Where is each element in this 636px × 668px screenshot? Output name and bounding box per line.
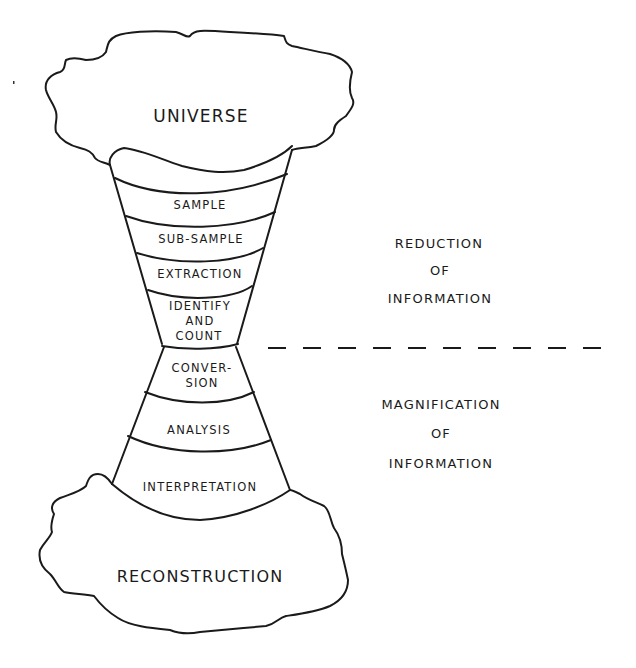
reconstruction-cloud: RECONSTRUCTION: [39, 474, 348, 633]
hourglass-diagram: UNIVERSE SAMPLE SUB-SAMPLE EXTRACTION ID…: [0, 0, 636, 668]
reconstruction-label: RECONSTRUCTION: [117, 567, 284, 586]
stage-identify-label: IDENTIFY: [169, 299, 231, 313]
reduction-label-line-2: OF: [430, 263, 450, 278]
magnification-label-line-1: MAGNIFICATION: [381, 397, 500, 412]
reduction-of-information-label: REDUCTION OF INFORMATION: [388, 236, 492, 306]
band-divider: [148, 286, 252, 298]
universe-label: UNIVERSE: [153, 106, 249, 126]
neck-divider: [162, 344, 238, 349]
band-divider: [145, 392, 254, 403]
band-divider: [115, 174, 287, 193]
stage-conversion-label-1: CONVER-: [172, 361, 233, 375]
stage-sub-sample-label: SUB-SAMPLE: [158, 232, 244, 246]
stage-interpretation-label: INTERPRETATION: [143, 480, 257, 494]
funnel: SAMPLE SUB-SAMPLE EXTRACTION IDENTIFY AN…: [110, 150, 292, 494]
reduction-label-line-3: INFORMATION: [388, 291, 492, 306]
stage-sample-label: SAMPLE: [173, 198, 226, 212]
stage-conversion-label-2: SION: [185, 376, 218, 390]
universe-cloud: UNIVERSE: [46, 31, 354, 172]
stray-mark: [13, 81, 15, 84]
reduction-label-line-1: REDUCTION: [395, 236, 483, 251]
stage-extraction-label: EXTRACTION: [157, 267, 242, 281]
magnification-label-line-2: OF: [431, 426, 451, 441]
magnification-label-line-3: INFORMATION: [389, 456, 493, 471]
band-divider: [128, 436, 271, 452]
stage-count-label: COUNT: [175, 329, 222, 343]
band-divider: [137, 248, 263, 262]
band-divider: [126, 212, 275, 227]
stage-analysis-label: ANALYSIS: [167, 423, 231, 437]
magnification-of-information-label: MAGNIFICATION OF INFORMATION: [381, 397, 500, 471]
stage-and-label: AND: [186, 314, 215, 328]
